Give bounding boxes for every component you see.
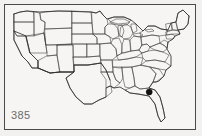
state-tennessee xyxy=(113,57,143,68)
state-pennsylvania xyxy=(141,35,160,47)
locality-dot-georgia xyxy=(146,89,152,95)
state-maryland-delaware xyxy=(150,43,167,52)
state-nebraska xyxy=(72,34,97,44)
state-missouri xyxy=(100,43,117,60)
state-wisconsin xyxy=(105,24,119,39)
state-north-dakota xyxy=(72,11,92,23)
state-montana xyxy=(40,11,72,29)
figure-number-label: 385 xyxy=(11,108,31,122)
state-arizona xyxy=(38,55,60,73)
state-minnesota xyxy=(92,11,108,34)
national-coastline xyxy=(14,10,189,122)
state-louisiana xyxy=(101,72,120,88)
state-oregon xyxy=(14,22,34,36)
state-wyoming xyxy=(45,28,72,45)
record-markers xyxy=(146,89,152,95)
state-illinois xyxy=(111,38,122,56)
state-alabama xyxy=(122,67,135,88)
state-boundaries xyxy=(14,10,189,122)
state-new-york xyxy=(140,26,168,37)
state-kansas xyxy=(87,44,100,57)
lake-huron xyxy=(131,24,137,33)
state-georgia xyxy=(132,65,156,89)
state-idaho xyxy=(34,12,45,36)
state-new-jersey xyxy=(160,40,168,48)
state-iowa xyxy=(93,34,111,44)
state-michigan-upper xyxy=(110,19,130,25)
lake-ontario xyxy=(145,29,154,32)
state-colorado xyxy=(57,44,87,57)
state-north-carolina xyxy=(141,60,171,70)
state-florida xyxy=(125,86,165,122)
border-mexico xyxy=(38,63,110,80)
state-indiana xyxy=(122,39,131,53)
state-ohio xyxy=(130,36,142,51)
state-new-mexico xyxy=(57,45,74,72)
state-mississippi xyxy=(113,67,123,83)
figure-container: 385 xyxy=(0,0,202,136)
state-south-dakota xyxy=(72,23,93,34)
